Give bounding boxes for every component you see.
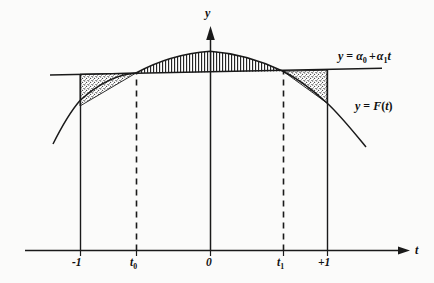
left-stipple-region: [78, 70, 140, 110]
curve-label-equals: =: [360, 99, 373, 113]
curve-label-close-paren: ): [389, 99, 393, 113]
tick-label-plus-one: +1: [318, 256, 330, 268]
line-label-equals: =: [343, 49, 356, 63]
series-label-curve: y=F(t): [355, 99, 393, 114]
figure-container: y t -1 t0 0 t1 +1 y=α0+α1t y=F(t): [0, 0, 434, 283]
y-axis-label: y: [205, 6, 210, 21]
tick-label-t0-subscript: 0: [133, 262, 137, 271]
tick-label-zero: 0: [206, 256, 212, 268]
tick-label-t1: t1: [277, 256, 284, 271]
tick-label-t0: t0: [130, 256, 137, 271]
series-label-straight-line: y=α0+α1t: [338, 49, 391, 65]
line-label-t: t: [387, 49, 390, 63]
line-label-plus: +: [367, 49, 377, 63]
tick-label-minus-one: -1: [72, 256, 82, 268]
x-axis: [25, 247, 410, 255]
diagram-canvas: [0, 0, 434, 283]
line-label-alpha0: α: [356, 49, 363, 63]
x-axis-label: t: [415, 243, 418, 258]
tick-label-t1-subscript: 1: [280, 262, 284, 271]
curve-label-F: F: [373, 99, 381, 113]
